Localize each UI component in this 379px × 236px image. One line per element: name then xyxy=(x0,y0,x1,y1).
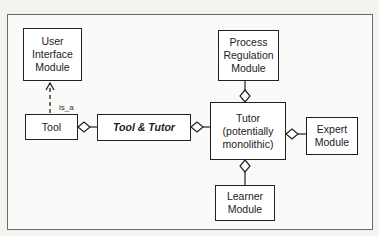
tutor-label: Tutor (potentially monolithic) xyxy=(223,112,274,151)
learner-module-label: Learner Module xyxy=(227,190,263,216)
process-regulation-module-box: Process Regulation Module xyxy=(218,30,279,81)
is-a-label: is_a xyxy=(59,103,74,112)
learner-module-box: Learner Module xyxy=(215,185,275,221)
tool-box: Tool xyxy=(25,114,78,140)
expert-module-label: Expert Module xyxy=(315,123,349,149)
process-regulation-module-label: Process Regulation Module xyxy=(223,36,273,75)
user-interface-module-box: User Interface Module xyxy=(23,28,82,81)
tool-label: Tool xyxy=(42,121,61,134)
tutor-box: Tutor (potentially monolithic) xyxy=(210,102,286,160)
expert-module-box: Expert Module xyxy=(306,117,358,155)
user-interface-module-label: User Interface Module xyxy=(32,35,73,74)
tool-and-tutor-label: Tool & Tutor xyxy=(113,121,175,134)
tool-and-tutor-box: Tool & Tutor xyxy=(97,114,191,141)
